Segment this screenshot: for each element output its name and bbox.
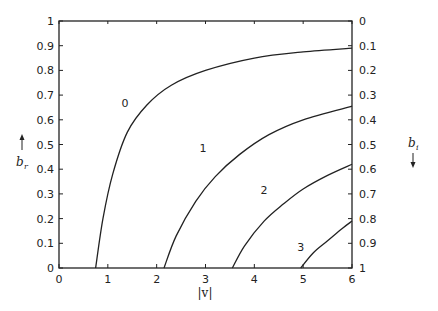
x-tick-label: 2 [153,273,160,286]
y-right-tick-label: 0.9 [359,237,377,250]
y-right-tick-label: 0.2 [359,64,377,77]
y-right-tick-label: 0.7 [359,188,377,201]
curve-3 [301,221,352,268]
y-left-axis-label: b r [16,134,29,171]
x-tick-label: 0 [56,273,63,286]
x-tick-label: 3 [202,273,209,286]
curve-label-0: 0 [121,97,128,110]
x-tick-label: 5 [300,273,307,286]
y-left-tick-label: 0.7 [37,89,55,102]
y-left-tick-label: 0.9 [37,40,55,53]
y-left-tick-label: 0.4 [37,163,55,176]
x-tick-label: 1 [104,273,111,286]
y-left-tick-label: 0 [47,262,54,275]
x-axis-label: |v| [198,286,213,300]
y-left-tick-label: 0.5 [37,139,55,152]
y-right-tick-label: 0.4 [359,114,377,127]
curve-labels: 0123 [121,97,304,253]
y-left-tick-label: 0.1 [37,237,55,250]
y-right-tick-label: 0 [359,15,366,28]
y-right-axis-label: b i [408,136,419,168]
arrow-down-icon [411,162,416,168]
x-tick-label: 4 [251,273,258,286]
y-right-tick-label: 0.5 [359,139,377,152]
svg-text:b: b [408,136,416,150]
y-right-tick-label: 0.3 [359,89,377,102]
y-right-tick-label: 0.8 [359,213,377,226]
svg-text:i: i [416,143,419,152]
curve-label-1: 1 [200,142,207,155]
curve-2 [232,164,352,268]
x-tick-label: 6 [349,273,356,286]
curve-label-2: 2 [261,184,268,197]
y-left-tick-label: 0.8 [37,64,55,77]
curves [96,48,352,268]
svg-text:b: b [16,155,24,169]
curve-label-3: 3 [297,241,304,254]
y-right-tick-label: 1 [359,262,366,275]
y-left-tick-label: 1 [47,15,54,28]
y-left-tick-label: 0.6 [37,114,55,127]
y-right-tick-label: 0.6 [359,163,377,176]
y-left-tick-label: 0.2 [37,213,55,226]
curve-0 [96,48,352,268]
arrow-up-icon [20,134,25,140]
chart: 012345600.10.20.30.40.50.60.70.80.9110.9… [0,0,438,311]
y-right-tick-label: 0.1 [359,40,377,53]
y-left-tick-label: 0.3 [37,188,55,201]
svg-text:r: r [24,162,29,171]
